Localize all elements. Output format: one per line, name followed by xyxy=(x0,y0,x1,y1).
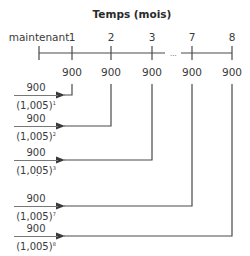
present-value-1: 900 (1,005)1 xyxy=(14,82,58,112)
present-value-8: 900 (1,005)8 xyxy=(14,223,58,253)
vertical-ellipsis: ⋮ xyxy=(33,171,41,174)
axis-ellipsis: ... xyxy=(170,50,177,58)
present-value-7: 900 (1,005)7 xyxy=(14,193,58,223)
present-value-2: 900 (1,005)2 xyxy=(14,113,58,143)
